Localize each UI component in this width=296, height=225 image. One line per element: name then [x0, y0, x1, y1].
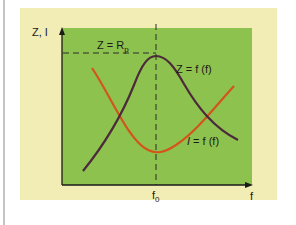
- x-axis-label: f: [250, 190, 254, 202]
- current-curve-label: I = f (f): [187, 135, 219, 147]
- impedance-curve-label: Z = f (f): [176, 63, 212, 75]
- f0-tick-label: f0: [152, 189, 160, 204]
- y-axis-label: Z, I: [32, 26, 48, 38]
- resonance-diagram: Z, I Z = Rp Z = f (f) I = f (f) f0 f: [0, 0, 296, 225]
